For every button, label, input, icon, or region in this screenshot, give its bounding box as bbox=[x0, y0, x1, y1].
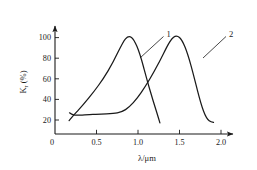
chart-container: 20 40 60 80 100 0 0.5 1.0 1.5 2.0 Kr (%)… bbox=[0, 0, 257, 170]
y-tick-label-60: 60 bbox=[43, 75, 51, 84]
series-label-1: 1 bbox=[167, 29, 171, 39]
x-axis-title: λ/μm bbox=[138, 153, 156, 163]
series-curve-2 bbox=[70, 36, 214, 122]
x-tick-label-0: 0 bbox=[50, 138, 54, 147]
y-tick-label-80: 80 bbox=[43, 54, 51, 63]
svg-text:Kr (%): Kr (%) bbox=[18, 70, 29, 93]
series-2-leader-line bbox=[203, 37, 226, 59]
x-axis-tick-labels: 0 0.5 1.0 1.5 2.0 bbox=[50, 138, 226, 147]
x-tick-label-1p0: 1.0 bbox=[133, 138, 143, 147]
series-1-leader-line bbox=[140, 37, 164, 59]
spectral-response-chart: 20 40 60 80 100 0 0.5 1.0 1.5 2.0 Kr (%)… bbox=[0, 0, 257, 170]
series-annotation-2: 2 bbox=[203, 29, 233, 59]
y-tick-label-40: 40 bbox=[43, 95, 51, 104]
x-tick-label-1p5: 1.5 bbox=[174, 138, 184, 147]
x-tick-label-0p5: 0.5 bbox=[91, 138, 101, 147]
y-axis-tick-labels: 20 40 60 80 100 bbox=[39, 33, 51, 124]
series-label-2: 2 bbox=[229, 29, 233, 39]
y-axis-title: Kr (%) bbox=[18, 70, 29, 93]
series-annotation-1: 1 bbox=[140, 29, 171, 59]
y-axis-title-unit: (%) bbox=[18, 70, 28, 83]
x-tick-label-2p0: 2.0 bbox=[216, 138, 226, 147]
y-tick-label-20: 20 bbox=[43, 116, 51, 125]
y-axis-ticks bbox=[55, 38, 59, 120]
y-tick-label-100: 100 bbox=[39, 33, 51, 42]
series-curve-1 bbox=[69, 37, 160, 123]
x-axis-ticks bbox=[97, 130, 222, 134]
